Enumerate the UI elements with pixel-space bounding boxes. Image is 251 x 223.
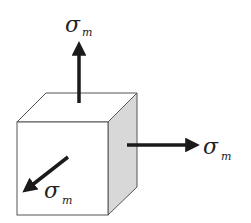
label-sub-up: m	[82, 26, 92, 39]
cube	[17, 93, 137, 215]
label-sigma-right: σ	[203, 134, 219, 159]
stress-cube-diagram: σ m σ m σ m	[0, 0, 251, 223]
label-sigma-front: σ	[44, 178, 60, 203]
label-sub-front: m	[62, 194, 72, 207]
label-sigma-up: σ	[65, 12, 81, 37]
label-sub-right: m	[221, 150, 231, 163]
